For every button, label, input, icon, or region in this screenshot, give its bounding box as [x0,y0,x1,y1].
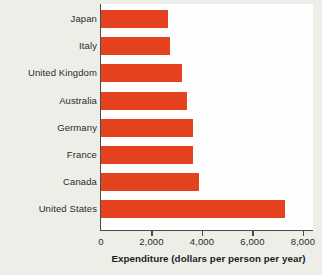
bar-united-states [101,200,285,218]
x-tick-label-2000: 2,000 [139,236,163,247]
bar-fill [101,92,187,110]
category-label-france: France [1,146,97,164]
bar-fill [101,200,285,218]
x-axis-title: Expenditure (dollars per person per year… [101,253,316,264]
category-label-australia: Australia [1,92,97,110]
bar-fill [101,146,193,164]
bar-australia [101,92,187,110]
bar-germany [101,119,193,137]
bar-fill [101,64,182,82]
bar-japan [101,10,168,28]
plot-area [101,4,313,230]
bars-layer [101,4,313,230]
bar-fill [101,173,199,191]
category-label-united-states: United States [1,200,97,218]
category-label-united-kingdom: United Kingdom [1,64,97,82]
bar-france [101,146,193,164]
category-axis-labels: JapanItalyUnited KingdomAustraliaGermany… [0,4,97,230]
bar-fill [101,10,168,28]
x-axis-line [100,230,313,231]
bar-italy [101,37,170,55]
x-tick-label-6000: 6,000 [240,236,264,247]
x-tick-label-0: 0 [98,236,103,247]
category-label-canada: Canada [1,173,97,191]
category-label-japan: Japan [1,10,97,28]
bar-fill [101,119,193,137]
expenditure-bar-chart: JapanItalyUnited KingdomAustraliaGermany… [0,0,322,275]
category-label-germany: Germany [1,119,97,137]
x-tick-label-4000: 4,000 [190,236,214,247]
bar-united-kingdom [101,64,182,82]
category-label-italy: Italy [1,37,97,55]
bar-canada [101,173,199,191]
y-axis-line [100,4,101,231]
x-tick-label-8000: 8,000 [291,236,315,247]
bar-fill [101,37,170,55]
